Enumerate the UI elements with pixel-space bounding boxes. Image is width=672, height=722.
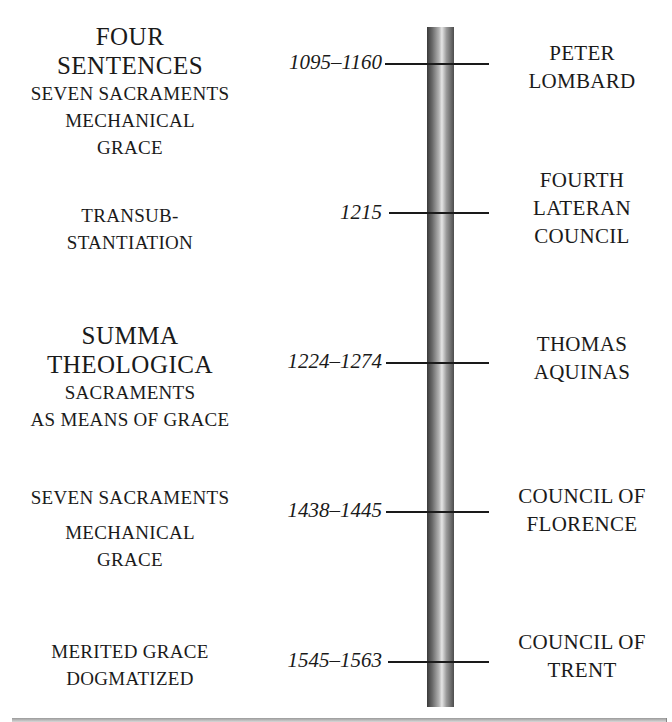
doctrine-line: GRACE [0, 134, 260, 161]
event-label-council-of-trent: COUNCIL OF TRENT [492, 628, 672, 684]
timeline-tick [388, 661, 489, 663]
doctrine-line: MECHANICAL [0, 519, 260, 546]
event-name-line: AQUINAS [492, 358, 672, 386]
doctrine-line: TRANSUB- [0, 202, 260, 229]
doctrine-line: GRACE [0, 546, 260, 573]
event-name-line: FOURTH [492, 166, 672, 194]
timeline-tick [385, 63, 489, 65]
left-annotation-council-of-trent: MERITED GRACE DOGMATIZED [0, 638, 260, 692]
left-annotation-fourth-lateran: TRANSUB- STANTIATION [0, 202, 260, 256]
event-name-line: THOMAS [492, 330, 672, 358]
doctrine-line: STANTIATION [0, 229, 260, 256]
event-name-line: PETER [492, 39, 672, 67]
timeline-tick [389, 212, 489, 214]
work-title-line: FOUR [0, 22, 260, 51]
bottom-divider [12, 718, 667, 722]
doctrine-line: SACRAMENTS [0, 379, 260, 406]
timeline-pole [427, 27, 454, 707]
doctrine-line: MECHANICAL [0, 107, 260, 134]
event-name-line: LATERAN [492, 194, 672, 222]
event-name-line: COUNCIL [492, 222, 672, 250]
doctrine-line: MERITED GRACE [0, 638, 260, 665]
date-label: 1095–1160 [289, 50, 382, 75]
timeline-tick [386, 511, 489, 513]
work-title-line: SUMMA [0, 321, 260, 350]
doctrine-line: SEVEN SACRAMENTS [0, 484, 260, 511]
date-label: 1224–1274 [288, 349, 383, 374]
date-label: 1438–1445 [288, 498, 383, 523]
left-annotation-council-of-florence: SEVEN SACRAMENTS MECHANICAL GRACE [0, 484, 260, 573]
work-title-line: THEOLOGICA [0, 350, 260, 379]
date-label: 1215 [340, 200, 382, 225]
event-name-line: FLORENCE [492, 510, 672, 538]
doctrine-line: SEVEN SACRAMENTS [0, 80, 260, 107]
event-label-fourth-lateran: FOURTH LATERAN COUNCIL [492, 166, 672, 250]
event-name-line: COUNCIL OF [492, 628, 672, 656]
left-annotation-peter-lombard: FOUR SENTENCES SEVEN SACRAMENTS MECHANIC… [0, 22, 260, 161]
left-annotation-thomas-aquinas: SUMMA THEOLOGICA SACRAMENTS AS MEANS OF … [0, 321, 260, 433]
event-name-line: LOMBARD [492, 67, 672, 95]
timeline-tick [386, 362, 489, 364]
doctrine-line: DOGMATIZED [0, 665, 260, 692]
event-label-peter-lombard: PETER LOMBARD [492, 39, 672, 95]
event-label-council-of-florence: COUNCIL OF FLORENCE [492, 482, 672, 538]
event-name-line: COUNCIL OF [492, 482, 672, 510]
work-title-line: SENTENCES [0, 51, 260, 80]
event-label-thomas-aquinas: THOMAS AQUINAS [492, 330, 672, 386]
date-label: 1545–1563 [288, 648, 383, 673]
doctrine-line: AS MEANS OF GRACE [0, 406, 260, 433]
event-name-line: TRENT [492, 656, 672, 684]
